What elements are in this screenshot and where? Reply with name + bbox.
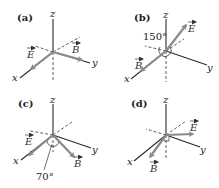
- y-axis-negative-dashed: [53, 122, 72, 135]
- panel-c: (c) z x y 70° E B: [13, 94, 98, 182]
- b-vector-label: B: [149, 163, 157, 174]
- b-vector-arrow: [141, 51, 166, 71]
- z-axis-label: z: [162, 94, 169, 105]
- angle-label: 70°: [36, 171, 54, 182]
- x-axis-negative-dashed: [30, 131, 53, 135]
- panel-a-label: (a): [17, 12, 33, 23]
- x-axis-label: x: [124, 73, 130, 84]
- panel-c-label: (c): [18, 98, 34, 109]
- b-vector-label: B: [73, 158, 81, 169]
- x-axis-label: x: [12, 72, 18, 83]
- y-axis-label: y: [206, 62, 213, 73]
- y-axis-label: y: [199, 144, 206, 155]
- x-axis-negative-dashed: [145, 46, 166, 51]
- z-axis-label: z: [49, 8, 56, 19]
- x-axis: [134, 135, 166, 161]
- b-vector-label: B: [134, 60, 142, 71]
- e-vector-label: E: [26, 49, 35, 60]
- y-axis-label: y: [91, 57, 98, 68]
- panel-a: (a) z x y E B: [12, 8, 98, 83]
- y-axis-label: y: [91, 144, 98, 155]
- panel-b: (b) z x y 150° E B: [124, 9, 213, 84]
- angle-leader-line: [44, 144, 52, 170]
- panel-d-label: (d): [131, 98, 147, 109]
- e-vector-label: E: [189, 122, 198, 133]
- y-axis: [166, 51, 207, 65]
- e-vector-label: E: [187, 23, 196, 34]
- x-axis-label: x: [13, 155, 19, 166]
- angle-label: 150°: [143, 31, 167, 42]
- panel-d: (d) z x y E B: [127, 94, 206, 174]
- e-vector-arrow: [166, 134, 193, 135]
- x-axis-negative-dashed: [35, 46, 53, 52]
- e-vector-label: E: [24, 136, 33, 147]
- panel-b-label: (b): [134, 12, 150, 23]
- y-axis-negative-dashed: [166, 121, 186, 135]
- x-axis-negative-dashed: [146, 129, 166, 135]
- y-axis: [166, 135, 200, 147]
- z-axis-label: z: [162, 9, 169, 20]
- e-vector-arrow: [166, 25, 186, 51]
- x-axis-label: x: [127, 156, 133, 167]
- b-vector-label: B: [71, 44, 79, 55]
- vector-diagram: (a) z x y E B (b) z x y 150° E B: [0, 0, 219, 188]
- z-axis-label: z: [49, 94, 56, 105]
